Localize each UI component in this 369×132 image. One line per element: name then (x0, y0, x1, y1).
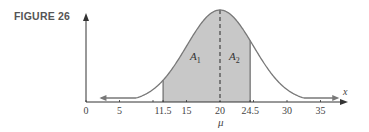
x-tick-label: 35 (316, 105, 326, 116)
x-tick-label: 11.5 (154, 105, 171, 116)
x-tick-label: 30 (282, 105, 292, 116)
x-axis-label: x (342, 86, 348, 97)
mu-label: μ (217, 116, 224, 128)
curve-right-arrow-icon (332, 95, 339, 101)
x-axis-arrow-icon (340, 99, 348, 105)
curve-left-arrow-icon (99, 95, 106, 101)
y-axis-arrow-icon (83, 13, 89, 21)
x-tick-label: 20 (215, 105, 225, 116)
x-tick-label: 5 (117, 105, 122, 116)
x-tick-label: 15 (182, 105, 192, 116)
tick-labels: 0511.5152024.53035 (84, 105, 326, 116)
x-tick-label: 0 (84, 105, 89, 116)
normal-curve-chart: 0511.5152024.53035 A1 A2 μ x (0, 0, 369, 132)
x-tick-label: 24.5 (241, 105, 259, 116)
